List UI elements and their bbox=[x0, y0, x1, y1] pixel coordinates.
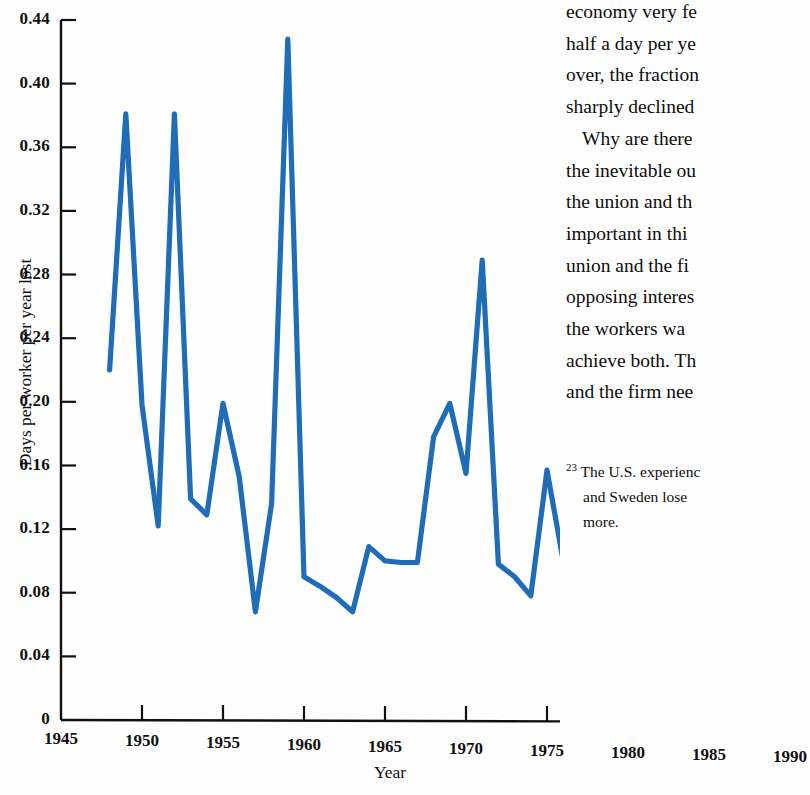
x-tick-label: 1990 bbox=[758, 747, 810, 767]
footnote-first-line: 23 The U.S. experienc bbox=[566, 455, 810, 484]
footnote-line-2: and Sweden lose bbox=[566, 484, 810, 509]
footnote-line: The U.S. experienc bbox=[581, 463, 701, 480]
footnote-block: 23 The U.S. experienc and Sweden lose mo… bbox=[566, 455, 810, 534]
body-line: half a day per ye bbox=[566, 28, 810, 60]
x-axis-line bbox=[61, 720, 560, 722]
y-tick-label: 0.40 bbox=[0, 73, 50, 93]
x-tick-label: 1945 bbox=[29, 729, 93, 749]
x-tick-label: 1980 bbox=[596, 743, 660, 763]
textbook-page: 0.44 0.40 0.36 0.32 0.28 0.24 0.20 0.16 … bbox=[0, 0, 810, 795]
y-axis-title: Days per worker per year lost bbox=[15, 198, 36, 528]
y-tick-label: 0 bbox=[0, 709, 50, 729]
x-tick-label: 1975 bbox=[515, 741, 579, 761]
body-line: sharply declined bbox=[566, 91, 810, 123]
x-tick-label: 1970 bbox=[434, 739, 498, 759]
footnote-line-3: more. bbox=[566, 509, 810, 534]
body-line: achieve both. Th bbox=[566, 345, 810, 377]
x-tick-label: 1985 bbox=[677, 745, 741, 765]
body-line: economy very fe bbox=[566, 0, 810, 28]
body-paragraph-1: economy very fe half a day per ye over, … bbox=[566, 0, 810, 123]
y-tick-label: 0.36 bbox=[0, 136, 50, 156]
body-line: the inevitable ou bbox=[566, 155, 810, 187]
x-tick-label: 1965 bbox=[353, 737, 417, 757]
body-line: the union and th bbox=[566, 186, 810, 218]
body-line: Why are there bbox=[566, 123, 810, 155]
chart-plot-svg bbox=[0, 0, 560, 795]
body-line: opposing interes bbox=[566, 281, 810, 313]
body-paragraph-2: Why are there the inevitable ou the unio… bbox=[566, 123, 810, 408]
body-line: over, the fraction bbox=[566, 59, 810, 91]
x-tick-label: 1960 bbox=[272, 735, 336, 755]
body-line: important in thi bbox=[566, 218, 810, 250]
y-axis-ticks bbox=[61, 20, 76, 656]
y-tick-label: 0.44 bbox=[0, 9, 50, 29]
footnote-marker: 23 bbox=[566, 461, 577, 473]
strike-activity-line-chart: 0.44 0.40 0.36 0.32 0.28 0.24 0.20 0.16 … bbox=[0, 0, 560, 795]
data-series-line bbox=[110, 39, 560, 659]
x-tick-label: 1950 bbox=[110, 731, 174, 751]
body-line: the workers wa bbox=[566, 313, 810, 345]
body-line: and the firm nee bbox=[566, 376, 810, 408]
x-axis-title: Year bbox=[330, 762, 450, 783]
y-tick-label: 0.08 bbox=[0, 582, 50, 602]
y-tick-label: 0.04 bbox=[0, 645, 50, 665]
x-tick-label: 1955 bbox=[191, 733, 255, 753]
body-line: union and the fi bbox=[566, 250, 810, 282]
